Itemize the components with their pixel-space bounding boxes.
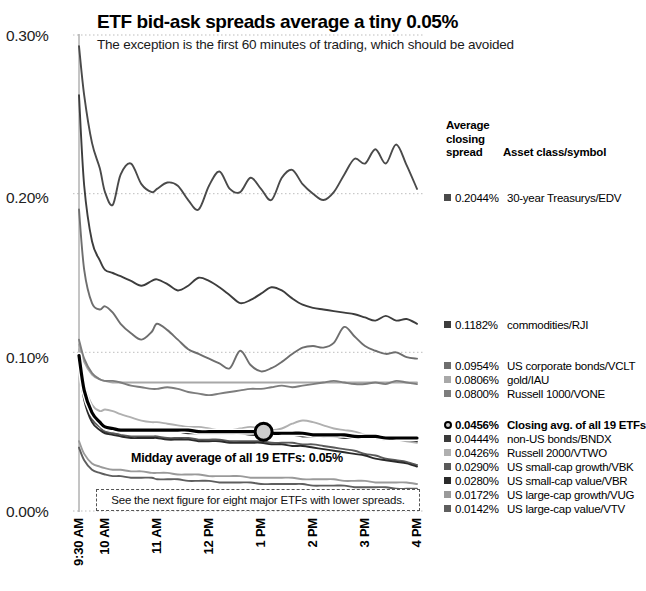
legend-value-8: 0.0290%: [455, 461, 507, 473]
legend-swatch-icon-6: [444, 435, 451, 442]
legend-value-7: 0.0426%: [455, 447, 507, 459]
series-line-VONE: [79, 340, 417, 396]
legend-value-1: 0.1182%: [455, 319, 507, 331]
legend-swatch-icon-1: [444, 321, 451, 328]
midday-annotation: Midday average of all 19 ETFs: 0.05%: [131, 451, 343, 465]
legend-swatch-icon-11: [444, 505, 451, 512]
x-tick-3: 12 PM: [202, 518, 215, 555]
legend-label-1: commodities/RJI: [507, 319, 588, 331]
legend-swatch-icon-3: [444, 376, 451, 383]
legend-row-4[interactable]: 0.0800%Russell 1000/VONE: [444, 387, 605, 400]
x-tick-6: 3 PM: [358, 518, 371, 548]
chart-plot-area: [73, 34, 423, 512]
y-tick-010: 0.10%: [6, 349, 48, 367]
note-box: See the next figure for eight major ETFs…: [96, 489, 420, 511]
legend-row-9[interactable]: 0.0280%US small-cap value/VBR: [444, 474, 627, 487]
legend-value-11: 0.0142%: [455, 503, 507, 515]
x-tick-2: 11 AM: [150, 518, 163, 554]
legend-value-4: 0.0800%: [455, 388, 507, 400]
legend-row-10[interactable]: 0.0172%US large-cap growth/VUG: [444, 488, 634, 501]
legend-value-3: 0.0806%: [455, 374, 507, 386]
chart-legend: Average closing spread Asset class/symbo…: [441, 0, 636, 591]
series-line-IAU: [79, 344, 417, 382]
legend-value-0: 0.2044%: [455, 192, 507, 204]
legend-label-0: 30-year Treasurys/EDV: [507, 192, 621, 204]
series-line-VCLT: [79, 210, 417, 372]
legend-swatch-icon-5: [444, 421, 452, 429]
chart-svg: [73, 34, 423, 512]
legend-swatch-icon-10: [444, 491, 451, 498]
legend-swatch-icon-0: [444, 194, 451, 201]
midday-marker-point: [255, 423, 272, 440]
series-line-AVG19: [79, 356, 417, 439]
legend-row-2[interactable]: 0.0954%US corporate bonds/VCLT: [444, 359, 635, 372]
legend-label-7: Russell 2000/VTWO: [507, 447, 607, 459]
legend-label-5: Closing avg. of all 19 ETFs: [507, 419, 646, 431]
legend-value-10: 0.0172%: [455, 489, 507, 501]
legend-label-9: US small-cap value/VBR: [507, 475, 627, 487]
legend-row-0[interactable]: 0.2044%30-year Treasurys/EDV: [444, 191, 621, 204]
legend-row-3[interactable]: 0.0806%gold/IAU: [444, 373, 549, 386]
legend-swatch-icon-2: [444, 362, 451, 369]
legend-row-5[interactable]: 0.0456%Closing avg. of all 19 ETFs: [444, 418, 646, 431]
series-line-VBK: [79, 362, 417, 465]
legend-label-4: Russell 1000/VONE: [507, 388, 605, 400]
legend-swatch-icon-7: [444, 449, 451, 456]
legend-swatch-icon-4: [444, 390, 451, 397]
x-tick-0: 9:30 AM: [72, 518, 85, 566]
y-tick-000: 0.00%: [6, 503, 48, 521]
legend-row-6[interactable]: 0.0444%non-US bonds/BNDX: [444, 432, 611, 445]
legend-value-2: 0.0954%: [455, 360, 507, 372]
legend-label-3: gold/IAU: [507, 374, 549, 386]
legend-value-6: 0.0444%: [455, 433, 507, 445]
y-tick-020: 0.20%: [6, 189, 48, 207]
legend-row-8[interactable]: 0.0290%US small-cap growth/VBK: [444, 460, 634, 473]
series-line-RJI: [79, 95, 417, 323]
legend-header-line2: closing: [446, 133, 490, 147]
legend-header-line1: Average: [446, 119, 490, 133]
series-halo-AVG19: [79, 356, 417, 439]
y-tick-030: 0.30%: [6, 27, 48, 45]
legend-value-9: 0.0280%: [455, 475, 507, 487]
x-tick-7: 4 PM: [410, 518, 423, 548]
legend-header-asset: Asset class/symbol: [503, 146, 606, 158]
legend-swatch-icon-9: [444, 477, 451, 484]
legend-header-line3: spread: [446, 146, 490, 160]
legend-row-11[interactable]: 0.0142%US large-cap value/VTV: [444, 502, 625, 515]
legend-label-2: US corporate bonds/VCLT: [507, 360, 635, 372]
legend-row-1[interactable]: 0.1182%commodities/RJI: [444, 318, 588, 331]
series-line-EDV: [79, 46, 417, 210]
legend-label-6: non-US bonds/BNDX: [507, 433, 611, 445]
legend-header-spread: Average closing spread: [446, 119, 490, 160]
legend-value-5: 0.0456%: [455, 419, 507, 431]
legend-label-11: US large-cap value/VTV: [507, 503, 625, 515]
legend-label-8: US small-cap growth/VBK: [507, 461, 634, 473]
legend-row-7[interactable]: 0.0426%Russell 2000/VTWO: [444, 446, 607, 459]
x-tick-1: 10 AM: [98, 518, 111, 555]
legend-swatch-icon-8: [444, 463, 451, 470]
x-tick-5: 2 PM: [306, 518, 319, 548]
x-tick-4: 1 PM: [254, 518, 267, 548]
legend-label-10: US large-cap growth/VUG: [507, 489, 634, 501]
